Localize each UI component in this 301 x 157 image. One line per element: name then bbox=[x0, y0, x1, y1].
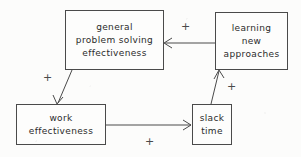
node-line: problem solving bbox=[76, 34, 153, 47]
node-general-problem-solving-effectiveness[interactable]: general problem solving effectiveness bbox=[65, 10, 164, 70]
edge-slack-to-learning bbox=[211, 70, 224, 104]
node-line: general bbox=[96, 21, 133, 34]
node-learning-new-approaches[interactable]: learning new approaches bbox=[215, 12, 288, 70]
node-line: approaches bbox=[224, 48, 280, 61]
node-work-effectiveness[interactable]: work effectiveness bbox=[16, 104, 106, 145]
node-line: learning bbox=[232, 22, 272, 35]
node-line: work bbox=[49, 112, 72, 125]
edge-polarity-learning-to-problem-solving: + bbox=[181, 21, 190, 32]
node-slack-time[interactable]: slack time bbox=[192, 104, 232, 145]
edge-polarity-work-to-slack: + bbox=[145, 136, 154, 147]
diagram-canvas: general problem solving effectiveness le… bbox=[0, 0, 301, 157]
edge-polarity-problem-solving-to-work: + bbox=[43, 72, 52, 83]
edge-learning-to-problem-solving bbox=[164, 38, 215, 48]
node-line: effectiveness bbox=[29, 125, 93, 138]
node-line: time bbox=[201, 125, 223, 138]
edge-polarity-slack-to-learning: + bbox=[227, 81, 236, 92]
edge-work-to-slack bbox=[106, 120, 191, 130]
edge-problem-solving-to-work bbox=[53, 70, 72, 104]
node-line: new bbox=[242, 35, 262, 48]
node-line: slack bbox=[200, 112, 225, 125]
node-line: effectiveness bbox=[82, 47, 146, 60]
